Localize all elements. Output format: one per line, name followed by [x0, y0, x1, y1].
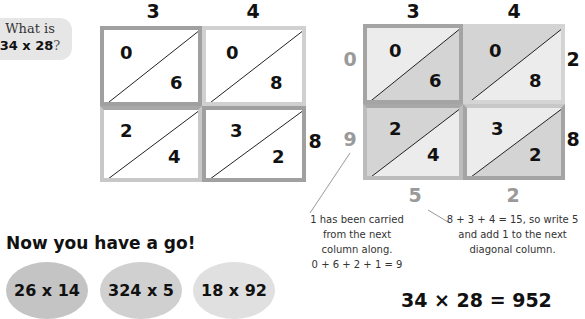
final-answer: 34 × 28 = 952 [401, 289, 552, 311]
sum-explanation: 8 + 3 + 4 = 15, so write 5 and add 1 to … [440, 212, 585, 257]
carry-explanation: 1 has been carried from the next column … [292, 212, 422, 272]
practice-problem-2: 324 x 5 [100, 262, 182, 319]
practice-title: Now you have a go! [6, 233, 195, 253]
practice-problem-3: 18 x 92 [193, 262, 275, 319]
practice-problem-1: 26 x 14 [6, 262, 88, 319]
